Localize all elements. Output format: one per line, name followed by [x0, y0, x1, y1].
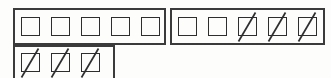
tally-group-1	[13, 8, 166, 45]
tally-cell-empty[interactable]	[51, 17, 70, 36]
tally-cell-marked[interactable]	[268, 17, 287, 36]
tally-cell-empty[interactable]	[111, 17, 130, 36]
square-icon	[51, 53, 70, 72]
square-icon	[81, 53, 100, 72]
tally-cell-empty[interactable]	[141, 17, 160, 36]
square-icon	[268, 17, 287, 36]
square-icon	[21, 17, 40, 36]
square-icon	[21, 53, 40, 72]
tally-cell-empty[interactable]	[81, 17, 100, 36]
square-icon	[81, 17, 100, 36]
tally-grid-canvas	[0, 0, 331, 78]
square-icon	[141, 17, 160, 36]
tally-cell-marked[interactable]	[298, 17, 317, 36]
tally-group-2	[170, 8, 325, 45]
tally-cell-empty[interactable]	[178, 17, 197, 36]
tally-cell-marked[interactable]	[21, 53, 40, 72]
square-icon	[51, 17, 70, 36]
square-icon	[208, 17, 227, 36]
square-icon	[178, 17, 197, 36]
tally-cell-marked[interactable]	[81, 53, 100, 72]
tally-cell-marked[interactable]	[51, 53, 70, 72]
tally-cell-empty[interactable]	[208, 17, 227, 36]
square-icon	[111, 17, 130, 36]
square-icon	[298, 17, 317, 36]
square-icon	[238, 17, 257, 36]
tally-cell-marked[interactable]	[238, 17, 257, 36]
tally-cell-empty[interactable]	[21, 17, 40, 36]
tally-group-3	[13, 45, 115, 78]
